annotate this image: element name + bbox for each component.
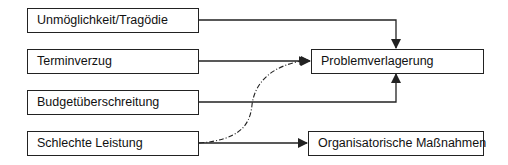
node-label: Terminverzug xyxy=(37,54,112,68)
node-terminverzug: Terminverzug xyxy=(27,49,199,74)
node-organisatorische-massnahmen: Organisatorische Maßnahmen xyxy=(308,131,484,156)
node-problemverlagerung: Problemverlagerung xyxy=(311,49,484,74)
node-label: Organisatorische Maßnahmen xyxy=(318,136,486,150)
node-budgetueberschreitung: Budgetüberschreitung xyxy=(27,90,199,115)
node-label: Schlechte Leistung xyxy=(37,136,143,150)
node-label: Budgetüberschreitung xyxy=(37,95,159,109)
node-label: Problemverlagerung xyxy=(321,54,434,68)
node-label: Unmöglichkeit/Tragödie xyxy=(37,13,168,27)
node-unmoeglichkeit-tragoedie: Unmöglichkeit/Tragödie xyxy=(27,8,199,33)
edge-unm-to-prob xyxy=(199,20,396,48)
edge-bud-to-prob xyxy=(199,74,396,102)
node-schlechte-leistung: Schlechte Leistung xyxy=(27,131,199,156)
